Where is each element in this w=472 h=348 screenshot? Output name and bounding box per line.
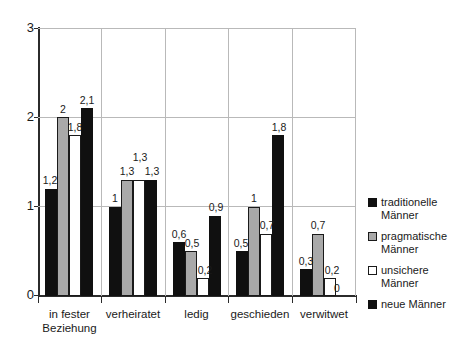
x-tick-mark-4 (292, 297, 293, 303)
y-axis: 3 2 1 0 (8, 0, 34, 348)
x-axis-label-line-1: in fester (38, 307, 101, 321)
x-axis-label-verwitwet: verwitwet (292, 307, 356, 321)
legend-label-line-2: Männer (381, 277, 429, 290)
bar-verheiratet-unsichere-maenner[interactable] (133, 180, 145, 296)
bar-label-in-fester-beziehung-neue-maenner: 2,1 (74, 95, 100, 106)
bar-ledig-neue-maenner[interactable] (209, 216, 221, 296)
x-axis-label-line-1: geschieden (228, 307, 292, 321)
x-axis-label-line-2: Beziehung (38, 321, 101, 335)
x-tick-mark-3 (228, 297, 229, 303)
bar-geschieden-neue-maenner[interactable] (272, 135, 284, 296)
legend-swatch-neue-maenner-icon (368, 300, 377, 309)
legend-label-line-2: Männer (381, 243, 447, 256)
bar-label-in-fester-beziehung-traditionelle-maenner: 1,2 (37, 175, 63, 186)
bar-label-geschieden-unsichere-maenner: 0,7 (254, 220, 280, 231)
bar-label-verheiratet-traditionelle-maenner: 1 (102, 193, 128, 204)
legend: traditionelle Männer pragmatische Männer… (368, 196, 472, 320)
bar-label-ledig-neue-maenner: 0,9 (203, 202, 229, 213)
bar-verwitwet-traditionelle-maenner[interactable] (300, 269, 312, 296)
x-axis-label-geschieden: geschieden (228, 307, 292, 321)
bar-label-in-fester-beziehung-unsichere-maenner: 1,8 (62, 122, 88, 133)
x-tick-mark-1 (101, 297, 102, 303)
x-tick-mark-2 (165, 297, 166, 303)
bar-label-verheiratet-unsichere-maenner: 1,3 (127, 152, 153, 163)
bar-in-fester-beziehung-traditionelle-maenner[interactable] (45, 189, 57, 296)
legend-label-line-1: traditionelle (381, 196, 437, 209)
bar-label-verwitwet-unsichere-maenner: 0,2 (319, 265, 345, 276)
bar-geschieden-traditionelle-maenner[interactable] (236, 251, 248, 296)
legend-item-neue-maenner[interactable]: neue Männer (368, 298, 472, 311)
y-tick-label-2: 2 (12, 110, 34, 123)
legend-item-traditionelle-maenner[interactable]: traditionelle Männer (368, 196, 472, 221)
legend-label-line-1: pragmatische (381, 230, 447, 243)
bar-group-verheiratet: 1 1,3 1,3 1,3 (102, 28, 165, 296)
legend-swatch-unsichere-maenner-icon (368, 266, 377, 275)
bar-ledig-traditionelle-maenner[interactable] (173, 242, 185, 296)
legend-label-pragmatische-maenner: pragmatische Männer (381, 230, 447, 255)
x-axis-label-line-1: verwitwet (292, 307, 356, 321)
bar-label-verheiratet-neue-maenner: 1,3 (139, 166, 165, 177)
bar-label-in-fester-beziehung-pragmatische-maenner: 2 (50, 104, 76, 115)
legend-label-traditionelle-maenner: traditionelle Männer (381, 196, 437, 221)
bar-label-verwitwet-traditionelle-maenner: 0,3 (293, 256, 319, 267)
x-tick-mark-5 (356, 297, 357, 303)
bar-in-fester-beziehung-unsichere-maenner[interactable] (69, 135, 81, 296)
bar-label-verwitwet-pragmatische-maenner: 0,7 (305, 220, 331, 231)
y-tick-label-1: 1 (12, 199, 34, 212)
legend-label-line-1: neue Männer (381, 298, 446, 311)
x-axis-label-line-1: ledig (165, 307, 228, 321)
legend-label-neue-maenner: neue Männer (381, 298, 446, 311)
bar-group-ledig: 0,6 0,5 0,2 0,9 (166, 28, 228, 296)
bar-ledig-unsichere-maenner[interactable] (197, 278, 209, 296)
bar-label-verwitwet-neue-maenner: 0 (334, 283, 354, 294)
bar-verheiratet-traditionelle-maenner[interactable] (109, 207, 121, 296)
bar-in-fester-beziehung-neue-maenner[interactable] (81, 108, 93, 296)
legend-label-line-1: unsichere (381, 264, 429, 277)
bar-label-geschieden-pragmatische-maenner: 1 (241, 193, 267, 204)
plot-area: 1,2 2 1,8 2,1 1 1,3 1,3 1,3 0,6 0,5 0,2 … (38, 28, 356, 296)
legend-swatch-traditionelle-maenner-icon (368, 198, 377, 207)
y-tick-label-3: 3 (12, 21, 34, 34)
bar-group-verwitwet: 0,3 0,7 0,2 0 (293, 28, 356, 296)
legend-label-unsichere-maenner: unsichere Männer (381, 264, 429, 289)
bar-label-verheiratet-pragmatische-maenner: 1,3 (114, 166, 140, 177)
bar-label-ledig-unsichere-maenner: 0,2 (192, 265, 218, 276)
x-axis-label-in-fester-beziehung: in fester Beziehung (38, 307, 101, 335)
x-axis-label-line-1: verheiratet (101, 307, 165, 321)
bar-chart: 3 2 1 0 1,2 2 1,8 2,1 (0, 0, 472, 348)
x-axis-label-verheiratet: verheiratet (101, 307, 165, 321)
legend-item-unsichere-maenner[interactable]: unsichere Männer (368, 264, 472, 289)
bar-in-fester-beziehung-pragmatische-maenner[interactable] (57, 117, 69, 296)
bar-group-in-fester-beziehung: 1,2 2 1,8 2,1 (38, 28, 101, 296)
x-axis-label-ledig: ledig (165, 307, 228, 321)
x-tick-mark-0 (38, 297, 39, 303)
legend-label-line-2: Männer (381, 209, 437, 222)
y-tick-label-0: 0 (12, 288, 34, 301)
bar-geschieden-unsichere-maenner[interactable] (260, 234, 272, 297)
bar-verheiratet-neue-maenner[interactable] (145, 180, 157, 296)
bar-label-ledig-pragmatische-maenner: 0,5 (179, 238, 205, 249)
bar-label-geschieden-traditionelle-maenner: 0,5 (228, 238, 254, 249)
bar-group-geschieden: 0,5 1 0,7 1,8 (229, 28, 292, 296)
bar-label-geschieden-neue-maenner: 1,8 (266, 122, 292, 133)
legend-item-pragmatische-maenner[interactable]: pragmatische Männer (368, 230, 472, 255)
legend-swatch-pragmatische-maenner-icon (368, 232, 377, 241)
